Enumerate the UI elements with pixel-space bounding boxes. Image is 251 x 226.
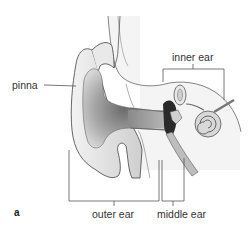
cochlea [195, 111, 221, 137]
ear-anatomy-illustration [0, 0, 251, 226]
label-middle-ear: middle ear [157, 209, 206, 220]
label-pinna: pinna [12, 80, 38, 91]
panel-label: a [14, 208, 20, 218]
label-inner-ear: inner ear [172, 52, 213, 63]
label-outer-ear: outer ear [92, 209, 134, 220]
